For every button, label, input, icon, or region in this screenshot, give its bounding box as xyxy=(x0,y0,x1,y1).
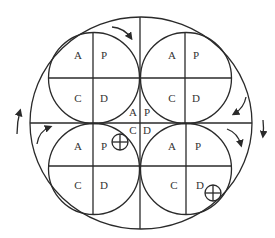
arrow-icon xyxy=(263,120,264,136)
circle-top-left: A P C D xyxy=(49,32,140,124)
circle-bottom-right: A P C D xyxy=(141,123,232,215)
arrow-icon xyxy=(234,97,246,114)
label-do: D xyxy=(196,179,204,191)
label-plan: P xyxy=(195,140,201,152)
label-check: C xyxy=(74,179,81,191)
circle-top-right: A P C D xyxy=(141,32,232,124)
arrow-icon xyxy=(17,111,20,134)
arrow-icon xyxy=(227,129,241,145)
label-plan: P xyxy=(144,106,150,118)
label-check: C xyxy=(168,92,175,104)
label-act: A xyxy=(74,140,82,152)
label-check: C xyxy=(129,124,136,136)
circled-plus-icon xyxy=(112,134,128,150)
label-do: D xyxy=(100,92,108,104)
label-act: A xyxy=(168,49,176,61)
label-do: D xyxy=(143,124,151,136)
arrow-icon xyxy=(37,127,50,144)
arrow-icon xyxy=(112,27,131,38)
label-check: C xyxy=(170,179,177,191)
label-do: D xyxy=(192,92,200,104)
circled-plus-icon xyxy=(205,185,221,201)
label-do: D xyxy=(100,179,108,191)
pdca-diagram: A P C D A P C D A P C D A P C D A P C D xyxy=(0,0,275,238)
label-plan: P xyxy=(193,49,199,61)
label-act: A xyxy=(129,106,137,118)
label-act: A xyxy=(74,49,82,61)
label-check: C xyxy=(74,92,81,104)
label-plan: P xyxy=(101,49,107,61)
label-plan: P xyxy=(101,140,107,152)
label-act: A xyxy=(168,140,176,152)
